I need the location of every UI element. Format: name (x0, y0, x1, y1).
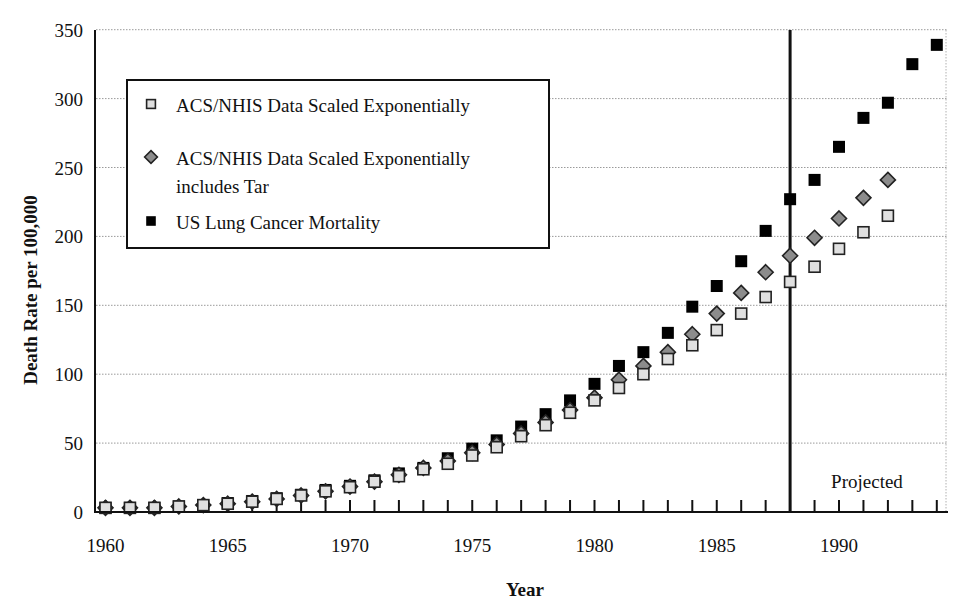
light-square-marker (222, 498, 233, 509)
black-square-marker (146, 216, 156, 226)
light-square-marker (296, 490, 307, 501)
x-tick-label: 1970 (331, 535, 369, 556)
diamond-marker (783, 248, 798, 263)
diamond-marker (856, 190, 871, 205)
light-square-marker (882, 210, 893, 221)
diamond-marker (758, 265, 773, 280)
legend-label: ACS/NHIS Data Scaled Exponentially (176, 95, 470, 116)
light-square-marker (345, 482, 356, 493)
light-square-marker (393, 471, 404, 482)
y-tick-label: 350 (55, 20, 84, 41)
black-square-marker (711, 280, 723, 292)
x-tick-label: 1985 (698, 535, 736, 556)
light-square-marker (736, 308, 747, 319)
light-square-marker (565, 407, 576, 418)
y-tick-label: 150 (55, 295, 84, 316)
light-square-marker (198, 500, 209, 511)
y-tick-label: 250 (55, 158, 84, 179)
light-square-marker (589, 395, 600, 406)
black-square-marker (686, 301, 698, 313)
light-square-marker (809, 261, 820, 272)
legend-label: includes Tar (176, 176, 269, 197)
y-axis-tick-labels: 050100150200250300350 (55, 20, 84, 523)
black-square-marker (882, 97, 894, 109)
light-square-marker (540, 420, 551, 431)
black-square-marker (760, 225, 772, 237)
black-square-marker (735, 255, 747, 267)
black-square-marker (857, 112, 869, 124)
diamond-marker (880, 172, 895, 187)
projected-label: Projected (831, 471, 903, 492)
x-tick-label: 1975 (453, 535, 491, 556)
legend: ACS/NHIS Data Scaled ExponentiallyACS/NH… (127, 80, 549, 248)
light-square-marker (516, 431, 527, 442)
light-square-marker (271, 493, 282, 504)
light-square-marker (147, 100, 156, 109)
legend-label: US Lung Cancer Mortality (176, 212, 381, 233)
black-square-marker (662, 327, 674, 339)
diamond-marker (832, 211, 847, 226)
black-square-marker (833, 141, 845, 153)
x-tick-label: 1980 (576, 535, 614, 556)
chart: 050100150200250300350 196019651970197519… (0, 0, 967, 612)
black-square-marker (589, 378, 601, 390)
light-square-marker (247, 496, 258, 507)
diamond-marker (734, 285, 749, 300)
light-square-marker (418, 464, 429, 475)
black-square-marker (613, 360, 625, 372)
light-square-marker (320, 486, 331, 497)
black-square-marker (809, 174, 821, 186)
diamond-marker (807, 230, 822, 245)
x-tick-label: 1965 (209, 535, 247, 556)
x-axis-tick-labels: 1960196519701975198019851990 (87, 535, 859, 556)
light-square-marker (834, 243, 845, 254)
light-square-marker (662, 354, 673, 365)
y-tick-label: 200 (55, 226, 84, 247)
x-axis-title: Year (506, 579, 545, 600)
light-square-marker (613, 382, 624, 393)
light-square-marker (785, 276, 796, 287)
y-tick-label: 100 (55, 364, 84, 385)
light-square-marker (760, 292, 771, 303)
y-tick-label: 50 (64, 433, 83, 454)
x-tick-label: 1960 (87, 535, 125, 556)
black-square-marker (637, 346, 649, 358)
series-0 (100, 210, 893, 513)
x-tick-label: 1990 (820, 535, 858, 556)
black-square-marker (784, 193, 796, 205)
black-square-marker (931, 39, 943, 51)
light-square-marker (369, 476, 380, 487)
black-square-marker (906, 58, 918, 70)
y-tick-label: 300 (55, 89, 84, 110)
light-square-marker (858, 227, 869, 238)
y-tick-label: 0 (74, 502, 84, 523)
legend-label: ACS/NHIS Data Scaled Exponentially (176, 148, 470, 169)
light-square-marker (687, 340, 698, 351)
light-square-marker (442, 458, 453, 469)
light-square-marker (173, 501, 184, 512)
light-square-marker (467, 450, 478, 461)
light-square-marker (638, 369, 649, 380)
light-square-marker (711, 325, 722, 336)
light-square-marker (491, 442, 502, 453)
y-axis-title: Death Rate per 100,000 (20, 195, 41, 385)
diamond-marker (709, 306, 724, 321)
